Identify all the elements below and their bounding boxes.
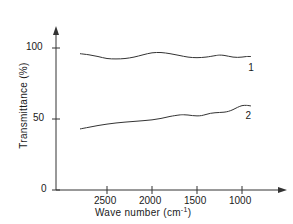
ytick-label-50: 50 xyxy=(33,112,44,123)
x-axis-title-text: Wave number (cm xyxy=(95,207,181,218)
xtick-label-2500: 2500 xyxy=(94,195,116,206)
axis-lines xyxy=(53,26,287,193)
ytick-label-100: 100 xyxy=(26,41,43,52)
y-axis-title: Transmittance (%) xyxy=(18,36,29,176)
axis-ticks xyxy=(52,48,242,194)
curve-1 xyxy=(80,52,251,58)
data-curves xyxy=(80,52,251,128)
chart-figure: 100 50 0 2500 2000 1500 1000 Wave number… xyxy=(0,0,293,224)
curve-label-2: 2 xyxy=(246,110,252,121)
curve-2 xyxy=(80,105,251,129)
x-axis-title-superscript: -1 xyxy=(181,206,188,213)
ytick-label-0: 0 xyxy=(41,183,47,194)
xtick-label-1500: 1500 xyxy=(184,195,206,206)
xtick-label-2000: 2000 xyxy=(139,195,161,206)
curve-label-1: 1 xyxy=(248,62,254,73)
x-axis-title-suffix: ) xyxy=(188,207,192,218)
xtick-label-1000: 1000 xyxy=(229,195,251,206)
x-axis-title: Wave number (cm-1) xyxy=(95,206,191,218)
